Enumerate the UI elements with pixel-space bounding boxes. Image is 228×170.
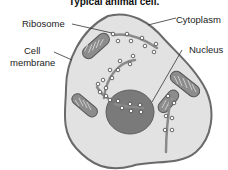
cytoplasm-label: Cytoplasm: [176, 14, 221, 25]
ribosome-label: Ribosome: [22, 18, 65, 29]
nucleus-label: Nucleus: [189, 44, 223, 55]
cell-membrane-label-line2: membrane: [10, 57, 55, 68]
cell-membrane-label-line1: Cell: [24, 45, 40, 56]
